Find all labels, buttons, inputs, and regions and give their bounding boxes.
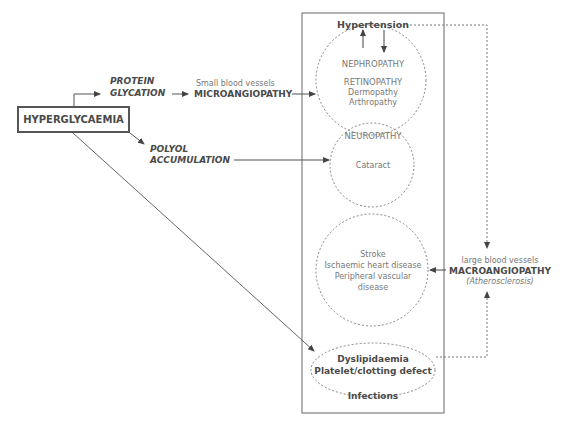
glycation-label: GLYCATION [110,89,165,98]
ischaemic-label: Ischaemic heart disease [324,262,421,270]
infections-label: Infections [348,392,398,401]
macroangiopathy-label: MACROANGIOPATHY [449,267,551,276]
retinopathy-label: RETINOPATHY [344,78,403,87]
hypertension-label: Hypertension [337,20,409,30]
hyperglycaemia-box: HYPERGLYCAEMIA [17,106,130,133]
atherosclerosis-label: (Atherosclerosis) [466,278,533,286]
peripheral-label: Peripheral vascular [335,273,412,281]
dyslipidaemia-label: Dyslipidaemia [337,355,409,364]
large-vessels-label: large blood vessels [462,257,539,265]
diagram-lines [0,0,567,422]
nephropathy-label: NEPHROPATHY [342,60,404,69]
neuropathy-label: NEUROPATHY [344,132,401,141]
disease-label: disease [358,284,388,292]
accumulation-label: ACCUMULATION [150,156,230,165]
small-vessels-label: Small blood vessels [196,80,275,88]
arthropathy-label: Arthropathy [349,99,397,107]
platelet-label: Platelet/clotting defect [314,367,431,376]
complications-box [302,13,444,413]
protein-label: PROTEIN [110,77,154,86]
dermopathy-label: Dermopathy [348,89,398,97]
microangiopathy-label: MICROANGIOPATHY [194,90,292,99]
cataract-label: Cataract [356,162,390,170]
polyol-label: POLYOL [150,145,188,154]
macro-circle [316,214,428,326]
stroke-label: Stroke [360,251,386,259]
